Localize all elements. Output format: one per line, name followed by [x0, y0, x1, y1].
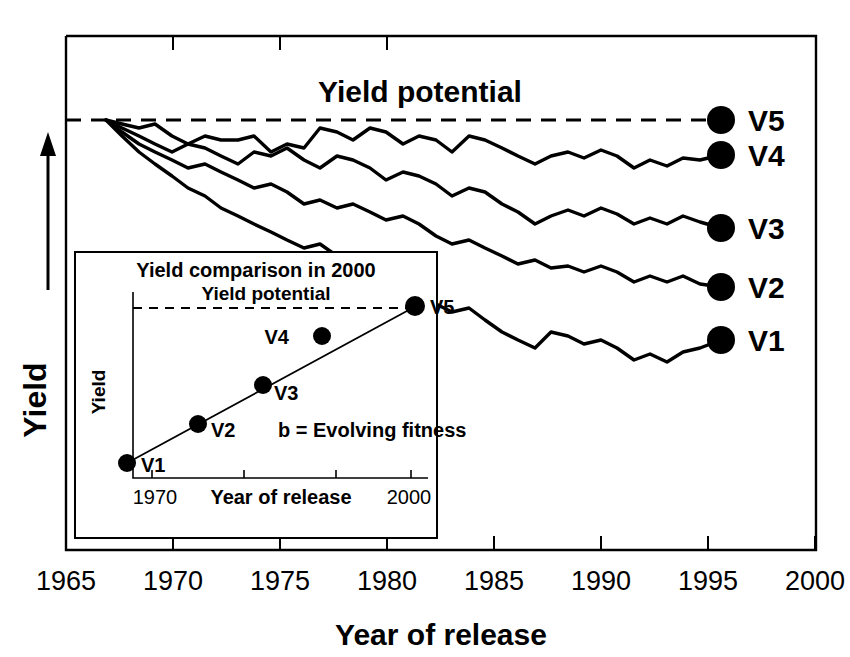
inset-label-v1: V1 [141, 454, 165, 476]
inset-x-tick-label: 1970 [133, 486, 178, 508]
main-x-axis-title: Year of release [335, 618, 547, 651]
inset-point-v1 [118, 454, 136, 472]
marker-v1 [707, 326, 735, 354]
x-tick-label: 1970 [143, 566, 203, 596]
marker-v2 [707, 273, 735, 301]
inset-y-axis-title: Yield [88, 370, 109, 415]
inset-label-v5: V5 [430, 296, 454, 318]
series-label-v5: V5 [748, 104, 785, 137]
figure-root: 1965 1970 1975 1980 1985 1990 1995 2000 … [0, 0, 850, 657]
inset-point-v5 [405, 296, 425, 316]
x-tick-label: 2000 [785, 566, 845, 596]
inset-point-v4 [313, 327, 331, 345]
inset-title: Yield comparison in 2000 [136, 259, 375, 281]
x-tick-label: 1995 [678, 566, 738, 596]
series-label-v3: V3 [748, 212, 785, 245]
inset-x-tick-label: 2000 [387, 486, 432, 508]
series-label-v1: V1 [748, 324, 785, 357]
inset-label-v3: V3 [274, 382, 298, 404]
marker-v5 [707, 106, 735, 134]
series-label-v4: V4 [748, 139, 785, 172]
inset-yield-potential-label: Yield potential [201, 283, 330, 304]
inset-point-v2 [189, 415, 207, 433]
yield-potential-label: Yield potential [318, 75, 522, 108]
marker-v4 [707, 141, 735, 169]
series-label-v2: V2 [748, 271, 785, 304]
x-tick-label: 1980 [357, 566, 417, 596]
inset-point-v3 [254, 376, 272, 394]
chart-svg: 1965 1970 1975 1980 1985 1990 1995 2000 … [0, 0, 850, 657]
marker-v3 [707, 214, 735, 242]
inset-label-v4: V4 [265, 326, 290, 348]
x-tick-label: 1990 [571, 566, 631, 596]
inset-x-axis-title: Year of release [210, 486, 351, 508]
x-tick-label: 1985 [464, 566, 524, 596]
inset-panel: Yield comparison in 2000 Yield potential [75, 252, 466, 538]
x-tick-label: 1975 [250, 566, 310, 596]
main-y-axis-title: Yield [17, 362, 53, 437]
inset-slope-note: b = Evolving fitness [278, 419, 466, 441]
inset-label-v2: V2 [211, 419, 235, 441]
x-tick-label: 1965 [36, 566, 96, 596]
